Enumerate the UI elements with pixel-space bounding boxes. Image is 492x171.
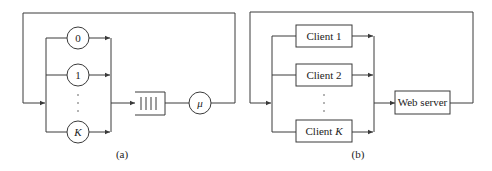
server-mu: μ: [189, 92, 211, 114]
ellipsis-a: [77, 94, 79, 112]
panel-b: Client 1 Client 2 Client K Web server (b…: [250, 12, 473, 161]
feedback-loop-a: [23, 13, 235, 103]
node-0: 0: [67, 27, 89, 49]
node-label: 1: [75, 69, 81, 81]
caption-a: (a): [116, 148, 129, 161]
closed-queueing-network-figure: 0 1 K μ (a): [0, 0, 492, 171]
client-K-box: Client K: [296, 120, 352, 142]
server-label: μ: [196, 97, 203, 109]
node-label: 0: [75, 32, 81, 44]
web-server-label: Web server: [398, 96, 448, 108]
client-1-box: Client 1: [296, 25, 352, 47]
node-label: K: [73, 126, 82, 138]
panel-a: 0 1 K μ (a): [23, 13, 235, 161]
caption-b: (b): [352, 148, 365, 161]
client-label: Client K: [306, 125, 344, 137]
client-label: Client 1: [306, 30, 341, 42]
feedback-loop-b: [250, 12, 473, 103]
node-K: K: [67, 121, 89, 143]
client-2-box: Client 2: [296, 64, 352, 86]
web-server-box: Web server: [395, 91, 450, 114]
queue-buffer: [135, 92, 165, 115]
node-1: 1: [67, 64, 89, 86]
ellipsis-b: [323, 94, 325, 112]
client-label: Client 2: [306, 69, 341, 81]
